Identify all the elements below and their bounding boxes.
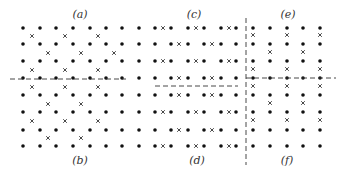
lattice-diagram: (a) (b) (c) (d) (e) (f) (0, 0, 345, 176)
lattice-dot (301, 144, 305, 148)
lattice-dot (219, 26, 223, 30)
panel-labels: (a) (b) (c) (d) (e) (f) (72, 8, 295, 167)
lattice-dot (153, 59, 157, 63)
lattice-dot (153, 26, 157, 30)
lattice-dot (169, 128, 173, 132)
lattice-dot (54, 42, 58, 46)
cross-marker (227, 59, 231, 63)
cross-marker (285, 67, 289, 71)
cross-marker (194, 59, 198, 63)
cross-marker (46, 102, 50, 106)
lattice-dot (268, 26, 272, 30)
cross-marker (79, 102, 83, 106)
lattice-dot (88, 110, 92, 114)
lattice-dot (169, 76, 173, 80)
cross-marker (161, 26, 165, 30)
lattice-dot (234, 26, 238, 30)
label-b: (b) (72, 154, 88, 167)
lattice-dot (186, 128, 190, 132)
lattice-dot (104, 93, 108, 97)
lattice-dot (21, 128, 25, 132)
lattice-dot (219, 110, 223, 114)
lattice-dot (104, 144, 108, 148)
lattice-dot (21, 93, 25, 97)
lattice-dot (38, 42, 42, 46)
lattice-dot (186, 76, 190, 80)
lattice-dot (137, 59, 141, 63)
cross-marker (177, 42, 181, 46)
lattice-dot (301, 110, 305, 114)
lattice-dot (169, 42, 173, 46)
cross-marker (194, 110, 198, 114)
lattice-dot (54, 128, 58, 132)
lattice-dot (104, 128, 108, 132)
cross-marker (210, 76, 214, 80)
lattice-dot (137, 144, 141, 148)
lattice-dot (169, 144, 173, 148)
lattice-dot (202, 42, 206, 46)
lattice-dot (71, 144, 75, 148)
lattice-dot (104, 110, 108, 114)
cross-marker (177, 76, 181, 80)
lattice-dot (301, 93, 305, 97)
cross-marker (30, 85, 34, 89)
cross-marker (227, 26, 231, 30)
lattice-dot (251, 128, 255, 132)
label-a: (a) (72, 8, 87, 21)
lattice-dot (285, 144, 289, 148)
lattice-dot (285, 26, 289, 30)
lattice-dot (169, 59, 173, 63)
lattice-dot (186, 59, 190, 63)
cross-marker (79, 136, 83, 140)
lattice-dot (54, 144, 58, 148)
cross-marker (96, 68, 100, 72)
lattice-dot (169, 93, 173, 97)
lattice-dot (71, 128, 75, 132)
lattice-dot (251, 144, 255, 148)
lattice-dot (301, 26, 305, 30)
lattice-dot (21, 42, 25, 46)
lattice-dot (234, 59, 238, 63)
label-f: (f) (281, 154, 294, 167)
lattice-dot (268, 110, 272, 114)
cross-marker (318, 33, 322, 37)
cross-marker (96, 34, 100, 38)
lattice-dot (71, 42, 75, 46)
lattice-dot (268, 128, 272, 132)
cross-marker (194, 144, 198, 148)
lattice-dot (104, 42, 108, 46)
lattice-dot (219, 42, 223, 46)
lattice-dot (88, 93, 92, 97)
cross-marker (96, 119, 100, 123)
lattice-dot (186, 144, 190, 148)
lattice-dot (137, 110, 141, 114)
lattice-dot (318, 128, 322, 132)
cross-marker (161, 59, 165, 63)
cross-marker (251, 118, 255, 122)
cross-marker (63, 85, 67, 89)
lattice-dot (301, 128, 305, 132)
lattice-dot (120, 42, 124, 46)
cross-marker (177, 128, 181, 132)
left-lattice-panel (10, 26, 141, 148)
lattice-dot (285, 128, 289, 132)
cross-marker (285, 84, 289, 88)
lattice-dot (54, 93, 58, 97)
cross-marker (251, 33, 255, 37)
lattice-dot (169, 26, 173, 30)
lattice-dot (285, 42, 289, 46)
lattice-dot (71, 93, 75, 97)
lattice-dot (21, 144, 25, 148)
lattice-dot (219, 93, 223, 97)
cross-marker (251, 67, 255, 71)
cross-marker (79, 51, 83, 55)
lattice-dot (104, 26, 108, 30)
cross-marker (30, 34, 34, 38)
lattice-dot (38, 110, 42, 114)
lattice-dot (268, 59, 272, 63)
lattice-dot (88, 42, 92, 46)
cross-marker (161, 144, 165, 148)
lattice-dot (202, 76, 206, 80)
lattice-dot (71, 110, 75, 114)
cross-marker (210, 93, 214, 97)
